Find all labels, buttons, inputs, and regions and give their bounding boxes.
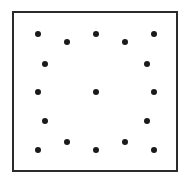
- dot-mid-right: [151, 89, 157, 95]
- dot-top-5: [151, 31, 157, 37]
- dot-left-2: [42, 61, 48, 67]
- dot-left-4: [42, 118, 48, 124]
- dot-top-4: [122, 39, 128, 45]
- dot-bot-5: [151, 147, 157, 153]
- dot-top-2: [64, 39, 70, 45]
- dot-top-3: [93, 31, 99, 37]
- dot-bot-1: [35, 147, 41, 153]
- dot-top-1: [35, 31, 41, 37]
- dot-mid-left: [35, 89, 41, 95]
- dot-bot-2: [64, 139, 70, 145]
- dot-right-2: [144, 61, 150, 67]
- dot-center: [93, 89, 99, 95]
- dot-bot-3: [93, 147, 99, 153]
- dot-bot-4: [122, 139, 128, 145]
- dot-pattern-figure: [0, 0, 189, 184]
- dot-right-4: [144, 118, 150, 124]
